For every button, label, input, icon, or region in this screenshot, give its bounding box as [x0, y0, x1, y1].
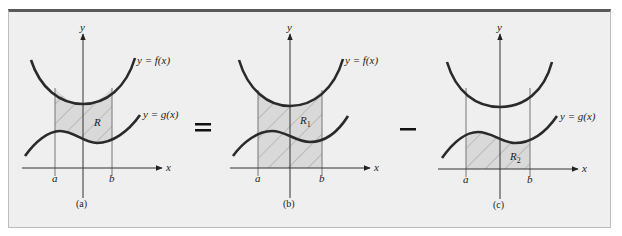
f-curve-label: y = f(x) [344, 54, 378, 67]
tick-label-b: b [109, 172, 115, 184]
equals-operator [195, 123, 211, 132]
region-label: R [93, 116, 101, 128]
panel-caption: (b) [283, 198, 295, 210]
y-axis-label: y [496, 21, 502, 33]
minus-operator [400, 128, 416, 131]
tick-label-b: b [319, 172, 325, 184]
f-curve-label: y = f(x) [136, 54, 170, 67]
panel-b: y x a b y = f(x) R1 (b) [230, 21, 379, 210]
panel-c: y x a b y = g(x) R2 (c) [438, 21, 596, 211]
panel-a: y x a b y = f(x) y = g(x) R (a) [22, 21, 179, 210]
figure-svg: y x a b y = f(x) y = g(x) R (a) y x a b [0, 0, 622, 236]
panel-caption: (a) [76, 198, 87, 210]
panel-caption: (c) [493, 199, 504, 211]
figure-stage: y x a b y = f(x) y = g(x) R (a) y x a b [0, 0, 622, 236]
g-curve-label: y = g(x) [559, 110, 596, 123]
tick-label-a: a [255, 172, 261, 184]
x-axis-label: x [581, 162, 587, 174]
g-curve-label: y = g(x) [142, 108, 179, 121]
y-axis-label: y [286, 21, 292, 33]
x-axis-label: x [373, 161, 379, 173]
y-axis-label: y [79, 21, 85, 33]
tick-label-a: a [463, 173, 469, 185]
curve-f [239, 59, 343, 106]
x-axis-label: x [165, 161, 171, 173]
tick-label-a: a [52, 172, 58, 184]
tick-label-b: b [527, 173, 533, 185]
